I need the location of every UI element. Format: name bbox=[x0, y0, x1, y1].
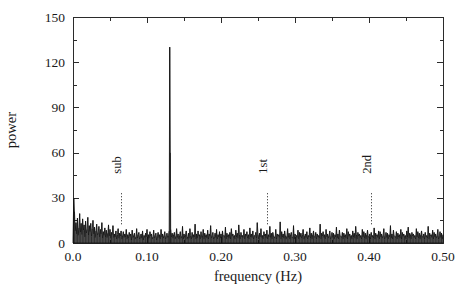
spectrum-stems bbox=[73, 47, 443, 243]
x-tick-label: 0.10 bbox=[135, 249, 159, 264]
y-tick-label: 60 bbox=[52, 145, 66, 160]
axis-ticks bbox=[73, 17, 444, 244]
annotation-label: 2nd bbox=[361, 154, 375, 174]
plot-frame bbox=[74, 18, 444, 244]
x-tick-label: 0.40 bbox=[357, 249, 381, 264]
x-axis-title: frequency (Hz) bbox=[214, 268, 302, 285]
annotation-label: sub bbox=[111, 156, 125, 173]
peak-annotations: sub1st2nd bbox=[111, 154, 375, 225]
x-tick-label: 0.30 bbox=[283, 249, 307, 264]
y-tick-label: 30 bbox=[52, 190, 66, 205]
y-tick-label: 120 bbox=[45, 55, 66, 70]
y-axis-title: power bbox=[3, 112, 19, 148]
y-tick-label: 150 bbox=[45, 10, 66, 25]
x-tick-label: 0.20 bbox=[209, 249, 233, 264]
spectrum-figure: 0.00.100.200.300.400.50 0306090120150 su… bbox=[0, 0, 468, 297]
y-tick-label: 0 bbox=[58, 236, 65, 251]
power-spectrum-plot: 0.00.100.200.300.400.50 0306090120150 su… bbox=[0, 0, 468, 297]
spectrum-envelope bbox=[73, 47, 443, 240]
y-tick-label: 90 bbox=[52, 100, 66, 115]
y-tick-labels: 0306090120150 bbox=[45, 10, 66, 251]
x-tick-labels: 0.00.100.200.300.400.50 bbox=[65, 249, 456, 264]
x-tick-label: 0.50 bbox=[431, 249, 455, 264]
spectrum-trace bbox=[73, 47, 443, 243]
annotation-label: 1st bbox=[257, 159, 271, 174]
x-tick-label: 0.0 bbox=[65, 249, 82, 264]
